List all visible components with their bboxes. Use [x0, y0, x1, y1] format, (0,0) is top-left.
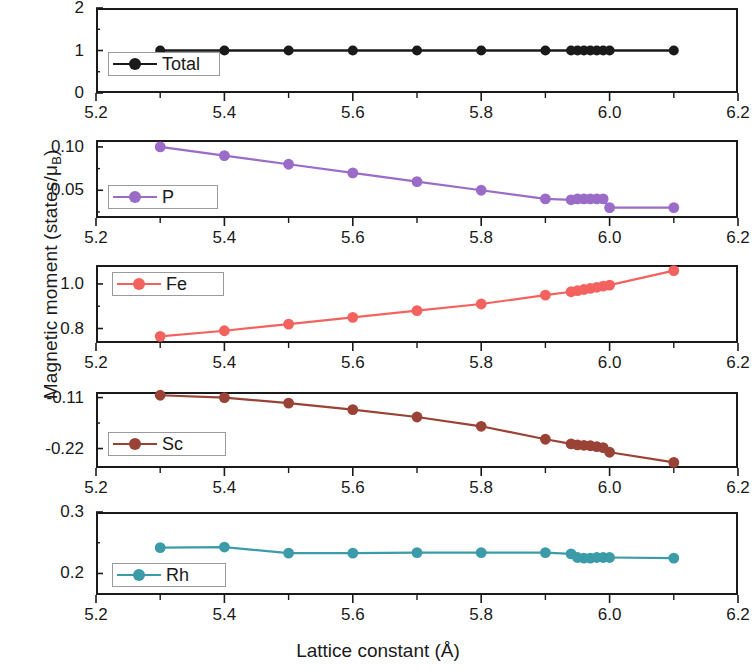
legend-dot — [129, 438, 141, 450]
data-point — [155, 390, 166, 401]
legend-p[interactable]: P — [108, 185, 218, 209]
legend-label: Total — [157, 55, 200, 73]
x-tick-label: 5.2 — [84, 228, 108, 248]
data-point — [219, 392, 230, 403]
y-tick-label: -0.11 — [0, 388, 84, 408]
y-tick-label: 0 — [0, 83, 84, 103]
data-point — [412, 176, 423, 187]
legend-label: Sc — [157, 435, 183, 453]
data-point — [347, 312, 358, 323]
legend-sc[interactable]: Sc — [108, 432, 226, 456]
x-tick-label: 5.6 — [341, 228, 365, 248]
plot-panel-total — [96, 8, 738, 93]
legend-dot — [129, 58, 141, 70]
legend-marker-icon — [117, 277, 161, 291]
data-point — [476, 46, 486, 56]
legend-label: P — [157, 188, 174, 206]
plot-panel-sc — [96, 392, 738, 468]
data-point — [219, 542, 230, 553]
x-tick-label: 5.8 — [469, 103, 493, 123]
x-tick-label: 5.8 — [469, 478, 493, 498]
x-tick-label: 6.2 — [726, 103, 750, 123]
data-point — [283, 319, 294, 330]
data-point — [476, 547, 487, 558]
x-tick-label: 5.2 — [84, 478, 108, 498]
data-point — [283, 159, 294, 170]
data-point — [347, 168, 358, 179]
x-tick-label: 5.8 — [469, 353, 493, 373]
x-tick-label: 6.2 — [726, 605, 750, 625]
series-line — [160, 395, 674, 462]
data-point — [476, 185, 487, 196]
data-point — [412, 412, 423, 423]
data-point — [604, 280, 615, 291]
data-point — [668, 202, 679, 213]
data-point — [605, 46, 615, 56]
y-tick-label: -0.22 — [0, 439, 84, 459]
data-point — [668, 553, 679, 564]
legend-label: Rh — [161, 566, 189, 584]
legend-marker-icon — [113, 437, 157, 451]
data-point — [412, 305, 423, 316]
x-axis-label: Lattice constant (Å) — [0, 640, 756, 662]
legend-marker-icon — [117, 568, 161, 582]
legend-dot — [129, 191, 141, 203]
legend-marker-icon — [113, 57, 157, 71]
x-tick-label: 5.4 — [213, 605, 237, 625]
data-point — [540, 547, 551, 558]
data-point — [412, 46, 422, 56]
data-point — [604, 552, 615, 563]
x-tick-label: 5.6 — [341, 103, 365, 123]
legend-total[interactable]: Total — [108, 52, 220, 76]
data-point — [540, 46, 550, 56]
y-tick-label: 0.8 — [0, 319, 84, 339]
x-tick-label: 5.2 — [84, 353, 108, 373]
y-tick-label: 0.3 — [0, 502, 84, 522]
x-tick-label: 6.0 — [598, 228, 622, 248]
data-point — [604, 202, 615, 213]
y-tick-label: 1.0 — [0, 274, 84, 294]
data-point — [347, 404, 358, 415]
data-point — [476, 299, 487, 310]
x-tick-label: 6.0 — [598, 353, 622, 373]
data-point — [348, 46, 358, 56]
y-axis-label-subscript: B — [49, 156, 64, 165]
figure-canvas: Magnetic moment (states/μB) Lattice cons… — [0, 0, 756, 672]
legend-dot — [133, 278, 145, 290]
series-total — [96, 8, 738, 93]
data-point — [219, 46, 229, 56]
data-point — [219, 150, 230, 161]
x-tick-label: 6.0 — [598, 103, 622, 123]
x-tick-label: 6.2 — [726, 478, 750, 498]
data-point — [668, 265, 679, 276]
x-tick-label: 6.2 — [726, 228, 750, 248]
x-tick-label: 6.0 — [598, 478, 622, 498]
data-point — [604, 447, 615, 458]
x-tick-label: 5.6 — [341, 353, 365, 373]
series-line — [160, 271, 674, 337]
x-tick-label: 5.8 — [469, 228, 493, 248]
legend-rh[interactable]: Rh — [112, 563, 226, 587]
data-point — [155, 331, 166, 342]
data-point — [540, 434, 551, 445]
x-tick-label: 5.8 — [469, 605, 493, 625]
data-point — [540, 194, 551, 205]
x-tick-label: 5.2 — [84, 605, 108, 625]
y-tick-label: 0.2 — [0, 563, 84, 583]
legend-fe[interactable]: Fe — [112, 272, 224, 296]
y-tick-label: 2 — [0, 0, 84, 18]
x-tick-label: 5.2 — [84, 103, 108, 123]
x-tick-label: 5.6 — [341, 605, 365, 625]
x-tick-label: 5.4 — [213, 103, 237, 123]
legend-dot — [133, 569, 145, 581]
data-point — [155, 142, 166, 153]
data-point — [284, 46, 294, 56]
data-point — [540, 290, 551, 301]
series-sc — [96, 392, 738, 468]
data-point — [283, 398, 294, 409]
y-tick-label: 0.10 — [0, 137, 84, 157]
y-tick-label: 0.05 — [0, 180, 84, 200]
x-tick-label: 5.6 — [341, 478, 365, 498]
data-point — [669, 46, 679, 56]
data-point — [598, 194, 609, 205]
